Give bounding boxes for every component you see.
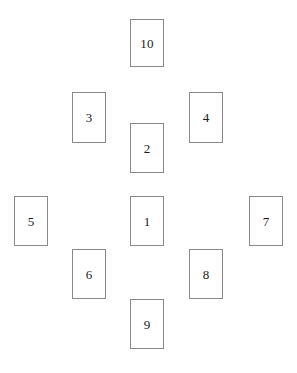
card-label: 10: [140, 37, 153, 50]
card-label: 6: [86, 268, 93, 281]
card-3[interactable]: 3: [72, 92, 106, 143]
card-9[interactable]: 9: [130, 299, 164, 349]
card-label: 5: [28, 215, 35, 228]
card-7[interactable]: 7: [249, 196, 283, 246]
card-label: 2: [144, 142, 151, 155]
card-4[interactable]: 4: [189, 92, 223, 143]
card-label: 7: [263, 215, 270, 228]
card-label: 3: [86, 111, 93, 124]
card-label: 1: [144, 215, 151, 228]
card-6[interactable]: 6: [72, 249, 106, 299]
card-2[interactable]: 2: [130, 123, 164, 173]
card-label: 4: [203, 111, 210, 124]
diagram-canvas: 10342517689: [0, 0, 297, 373]
card-label: 8: [203, 268, 210, 281]
card-1[interactable]: 1: [130, 196, 164, 246]
card-5[interactable]: 5: [14, 196, 48, 246]
card-label: 9: [144, 318, 151, 331]
card-8[interactable]: 8: [189, 249, 223, 299]
card-10[interactable]: 10: [130, 19, 164, 67]
